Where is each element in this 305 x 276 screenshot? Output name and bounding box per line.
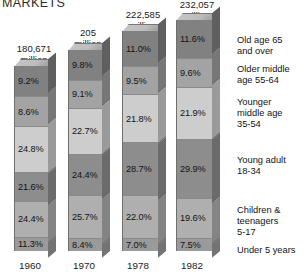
legend-item-under-5-years: Under 5 years xyxy=(237,245,305,256)
segment-younger-middle-age: 21.9% xyxy=(177,88,213,140)
legend-line: 5-17 xyxy=(237,227,305,238)
bar-group-1982: 232,057 million 11.6% 9.6% 21.9% 29.9% xyxy=(170,0,224,276)
bar-front-1960: 9.2% 8.6% 24.8% 21.6% 24.4% 11.3% xyxy=(14,66,49,251)
segment-under-5-years: 7.5% xyxy=(177,239,213,251)
legend-item-young-adult: Young adult 18-34 xyxy=(237,155,305,177)
legend-line: teenagers xyxy=(237,216,305,227)
bar-total-line1: 205 xyxy=(80,27,96,38)
legend-item-children-teenagers: Children & teenagers 5-17 xyxy=(237,205,305,239)
bar-side-face-1960 xyxy=(48,52,56,258)
bar-year-1978: 1978 xyxy=(111,260,165,271)
segment-label: 9.6% xyxy=(180,68,201,78)
segment-under-5-years: 7.0% xyxy=(123,239,159,251)
segment-old-age-65-over: 11.0% xyxy=(123,31,159,67)
segment-label: 9.5% xyxy=(126,76,147,86)
segment-label: 22.0% xyxy=(126,212,152,222)
segment-older-middle-age: 9.5% xyxy=(123,67,159,95)
bar-total-line1: 222,585 xyxy=(126,9,160,20)
legend-line: Old age 65 xyxy=(237,35,305,46)
legend: Old age 65 and over Older middle age 55-… xyxy=(237,0,305,276)
segment-label: 22.7% xyxy=(72,126,98,136)
bar-side-face-1970 xyxy=(102,36,110,258)
legend-line: and over xyxy=(237,46,305,57)
segment-young-adult: 28.7% xyxy=(123,143,159,196)
segment-label: 21.6% xyxy=(18,182,44,192)
bar-side-face-1978 xyxy=(158,17,166,258)
segment-label: 24.4% xyxy=(18,214,44,224)
legend-line: 35-54 xyxy=(237,119,305,130)
segment-old-age-65-over: 11.6% xyxy=(177,20,213,59)
segment-label: 8.6% xyxy=(18,107,39,117)
segment-label: 9.2% xyxy=(18,76,39,86)
segment-label: 21.9% xyxy=(180,108,206,118)
stacked-bar-chart: MARKETS 180,671 million 9.2% 8.6% 24.8% … xyxy=(0,0,305,276)
legend-line: age 55-64 xyxy=(237,75,305,86)
legend-line: Young adult xyxy=(237,155,305,166)
segment-old-age-65-over: 9.2% xyxy=(15,66,49,97)
segment-older-middle-age: 8.6% xyxy=(15,97,49,126)
segment-label: 7.5% xyxy=(180,240,201,250)
bar-front-1978: 11.0% 9.5% 21.8% 28.7% 22.0% 7.0% xyxy=(122,31,159,251)
legend-line: Under 5 years xyxy=(237,245,305,256)
bar-group-1970: 205 million 9.8% 9.1% 22.7% 24.4% 25.7% xyxy=(62,0,114,276)
legend-line: middle age xyxy=(237,108,305,119)
segment-under-5-years: 11.3% xyxy=(15,238,49,251)
segment-label: 21.8% xyxy=(126,114,152,124)
segment-label: 9.1% xyxy=(72,89,93,99)
segment-label: 24.4% xyxy=(72,170,98,180)
segment-children-teenagers: 22.0% xyxy=(123,196,159,239)
legend-line: Younger xyxy=(237,97,305,108)
segment-label: 19.6% xyxy=(180,213,206,223)
segment-younger-middle-age: 22.7% xyxy=(69,109,103,155)
segment-old-age-65-over: 9.8% xyxy=(69,50,103,81)
segment-label: 8.4% xyxy=(72,240,93,250)
bar-column-1982: 11.6% 9.6% 21.9% 29.9% 19.6% 7.5% xyxy=(176,20,220,251)
segment-label: 28.7% xyxy=(126,164,152,174)
bar-group-1978: 222,585 million 11.0% 9.5% 21.8% 28.7% xyxy=(116,0,170,276)
segment-older-middle-age: 9.6% xyxy=(177,59,213,88)
legend-line: 18-34 xyxy=(237,166,305,177)
bar-year-1982: 1982 xyxy=(165,260,219,271)
bar-total-line1: 232,057 xyxy=(180,0,214,10)
segment-children-teenagers: 19.6% xyxy=(177,199,213,239)
bar-year-1960: 1960 xyxy=(4,260,56,271)
segment-label: 24.8% xyxy=(18,144,44,154)
segment-younger-middle-age: 21.8% xyxy=(123,95,159,143)
segment-label: 11.3% xyxy=(18,239,43,249)
segment-younger-middle-age: 24.8% xyxy=(15,127,49,173)
bar-side-face-1982 xyxy=(212,6,220,258)
legend-item-old-age-65-over: Old age 65 and over xyxy=(237,35,305,57)
bar-column-1970: 9.8% 9.1% 22.7% 24.4% 25.7% 8.4% xyxy=(68,50,110,251)
legend-item-younger-middle-age: Younger middle age 35-54 xyxy=(237,97,305,131)
segment-label: 11.6% xyxy=(180,34,205,44)
segment-under-5-years: 8.4% xyxy=(69,239,103,251)
legend-line: Children & xyxy=(237,205,305,216)
segment-label: 7.0% xyxy=(126,240,147,250)
bar-column-1978: 11.0% 9.5% 21.8% 28.7% 22.0% 7.0% xyxy=(122,31,166,251)
legend-line: Older middle xyxy=(237,64,305,75)
bar-column-1960: 9.2% 8.6% 24.8% 21.6% 24.4% 11.3% xyxy=(14,66,56,251)
segment-young-adult: 21.6% xyxy=(15,173,49,202)
bar-front-1970: 9.8% 9.1% 22.7% 24.4% 25.7% 8.4% xyxy=(68,50,103,251)
segment-young-adult: 29.9% xyxy=(177,140,213,199)
segment-young-adult: 24.4% xyxy=(69,155,103,196)
segment-label: 25.7% xyxy=(72,212,98,222)
segment-children-teenagers: 25.7% xyxy=(69,196,103,239)
segment-children-teenagers: 24.4% xyxy=(15,202,49,238)
bar-group-1960: 180,671 million 9.2% 8.6% 24.8% 21.6% 2 xyxy=(8,0,60,276)
segment-label: 29.9% xyxy=(180,164,206,174)
segment-label: 9.8% xyxy=(72,60,93,70)
bar-year-1970: 1970 xyxy=(58,260,110,271)
segment-older-middle-age: 9.1% xyxy=(69,81,103,109)
bar-front-1982: 11.6% 9.6% 21.9% 29.9% 19.6% 7.5% xyxy=(176,20,213,251)
bar-total-line1: 180,671 xyxy=(17,43,51,54)
segment-label: 11.0% xyxy=(126,44,151,54)
legend-item-older-middle-age: Older middle age 55-64 xyxy=(237,64,305,86)
